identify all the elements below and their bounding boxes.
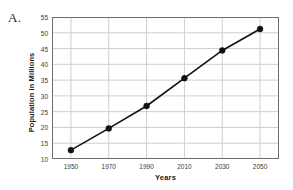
vertical-gridlines: [71, 17, 260, 159]
y-tick-label: 20: [41, 124, 48, 131]
chart-figure: A. Population in Millions 10152025303540…: [0, 0, 293, 190]
y-tick-label: 40: [41, 61, 48, 68]
x-tick-label: 1990: [139, 163, 153, 170]
x-tick-label: 1950: [64, 163, 78, 170]
x-tick-label: 1970: [102, 163, 116, 170]
y-axis-title: Population in Millions: [27, 33, 36, 153]
horizontal-gridlines: [52, 33, 279, 143]
x-tick-label: 2010: [177, 163, 191, 170]
data-point-markers: [68, 26, 263, 153]
x-tick-label: 2050: [253, 163, 267, 170]
problem-letter-label: A.: [8, 10, 21, 26]
line-chart-svg: [52, 17, 279, 159]
x-tick-label: 2030: [215, 163, 229, 170]
y-tick-label: 25: [41, 108, 48, 115]
y-tick-label: 55: [41, 14, 48, 21]
y-tick-label: 30: [41, 92, 48, 99]
y-tick-label: 35: [41, 77, 48, 84]
data-line: [71, 29, 260, 150]
y-tick-label: 10: [41, 156, 48, 163]
plot-area: 10152025303540455055 1950197019902010203…: [52, 17, 279, 159]
y-tick-label: 15: [41, 140, 48, 147]
x-axis-title: Years: [52, 173, 279, 182]
y-tick-label: 50: [41, 29, 48, 36]
y-tick-label: 45: [41, 45, 48, 52]
